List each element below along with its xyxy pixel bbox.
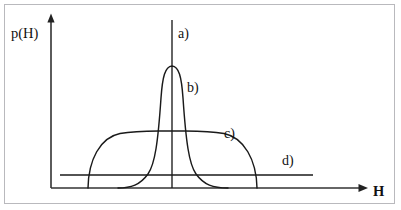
figure-root: p(H) H a) b) c) d) — [0, 0, 401, 210]
curve-label-c: c) — [224, 127, 235, 141]
y-axis-arrowhead — [47, 14, 54, 23]
curve-label-b: b) — [187, 81, 199, 95]
plot-canvas — [0, 0, 401, 210]
curve-b-narrow-peak — [118, 66, 228, 188]
x-axis-label: H — [373, 184, 384, 199]
x-axis-arrowhead — [359, 184, 369, 192]
curve-label-a: a) — [178, 27, 189, 41]
y-axis — [47, 14, 54, 189]
y-axis-label: p(H) — [11, 26, 38, 41]
curve-label-d: d) — [282, 154, 294, 168]
